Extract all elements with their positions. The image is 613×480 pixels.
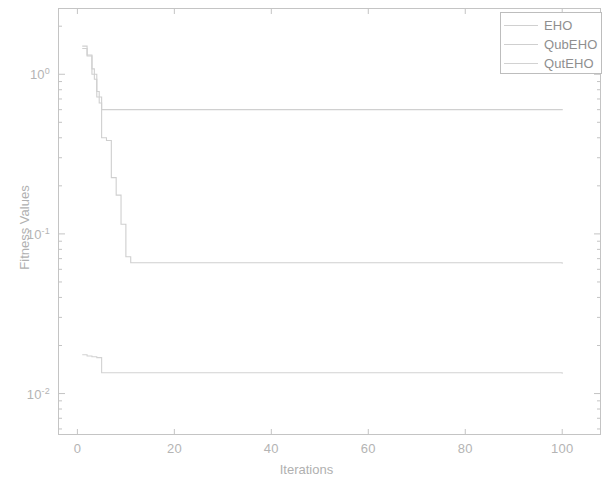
x-axis-title: Iterations bbox=[0, 462, 613, 477]
y-tick-label-2: 10-2 bbox=[6, 385, 50, 401]
y-axis-title: Fitness Values bbox=[17, 148, 32, 308]
legend-swatch-qubeho bbox=[504, 44, 538, 45]
legend-item-qubeho: QubEHO bbox=[501, 35, 601, 54]
chart-legend: EHO QubEHO QutEHO bbox=[500, 12, 602, 74]
legend-swatch-quteho bbox=[504, 63, 538, 64]
x-tick-label-2: 40 bbox=[264, 441, 279, 456]
x-tick-label-1: 20 bbox=[167, 441, 182, 456]
legend-label-qubeho: QubEHO bbox=[544, 37, 597, 52]
x-tick-label-3: 60 bbox=[361, 441, 376, 456]
legend-label-eho: EHO bbox=[544, 18, 572, 33]
chart-figure: 10010-110-2 020406080100 Fitness Values … bbox=[0, 0, 613, 480]
legend-item-eho: EHO bbox=[501, 16, 601, 35]
y-tick-label-0: 100 bbox=[6, 66, 50, 82]
legend-label-quteho: QutEHO bbox=[544, 56, 594, 71]
legend-item-quteho: QutEHO bbox=[501, 54, 601, 73]
x-tick-label-4: 80 bbox=[458, 441, 473, 456]
x-tick-label-5: 100 bbox=[551, 441, 573, 456]
x-tick-label-0: 0 bbox=[74, 441, 81, 456]
legend-swatch-eho bbox=[504, 25, 538, 26]
